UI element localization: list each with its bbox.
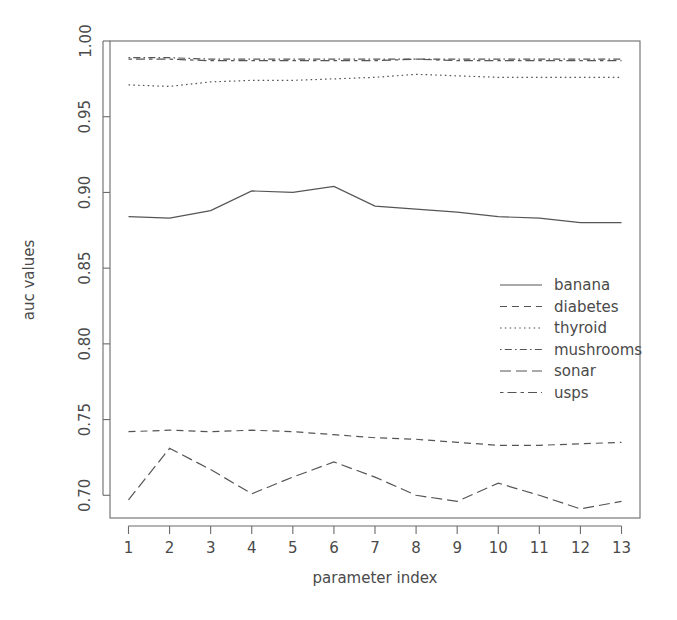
y-tick-label: 0.70 xyxy=(77,479,95,512)
y-tick-label: 1.00 xyxy=(77,24,95,57)
x-axis-title: parameter index xyxy=(313,569,438,587)
chart-container: 0.700.750.800.850.900.951.00 12345678910… xyxy=(0,0,677,620)
auc-line-chart: 0.700.750.800.850.900.951.00 12345678910… xyxy=(0,0,677,620)
x-tick-label: 7 xyxy=(370,539,380,557)
legend-label-mushrooms: mushrooms xyxy=(554,341,642,359)
y-axis-title: auc values xyxy=(20,240,38,321)
legend-label-diabetes: diabetes xyxy=(554,298,619,316)
x-tick-label: 9 xyxy=(452,539,462,557)
x-tick-label: 4 xyxy=(247,539,257,557)
x-tick-label: 11 xyxy=(530,539,549,557)
legend-label-banana: banana xyxy=(554,276,610,294)
y-tick-label: 0.80 xyxy=(77,327,95,360)
x-tick-label: 2 xyxy=(165,539,175,557)
x-tick-label: 13 xyxy=(612,539,631,557)
x-tick-label: 12 xyxy=(571,539,590,557)
y-tick-label: 0.85 xyxy=(77,251,95,284)
x-tick-label: 1 xyxy=(124,539,134,557)
y-tick-label: 0.75 xyxy=(77,403,95,436)
legend-label-sonar: sonar xyxy=(554,362,597,380)
x-tick-label: 3 xyxy=(206,539,216,557)
x-tick-label: 10 xyxy=(489,539,508,557)
legend-label-usps: usps xyxy=(554,384,589,402)
y-tick-label: 0.90 xyxy=(77,176,95,209)
legend-label-thyroid: thyroid xyxy=(554,319,607,337)
x-tick-label: 5 xyxy=(288,539,298,557)
x-tick-label: 8 xyxy=(411,539,421,557)
x-tick-label: 6 xyxy=(329,539,339,557)
y-tick-label: 0.95 xyxy=(77,100,95,133)
